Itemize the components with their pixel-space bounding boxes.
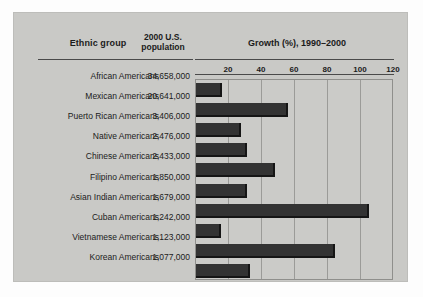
x-tick-label-120: 120 (386, 65, 399, 74)
row-population-chinese-americans: 2,433,000 (131, 151, 190, 161)
x-tick-label-80: 80 (323, 65, 332, 74)
bar-asian-indian-americans (196, 204, 369, 218)
row-population-asian-indian-americans: 1,679,000 (131, 192, 190, 202)
bar-row (196, 201, 394, 221)
row-population-puerto-rican-americans: 3,406,000 (131, 111, 190, 121)
row-population-filipino-americans: 1,850,000 (131, 172, 190, 182)
row-population-korean-americans: 1,077,000 (131, 252, 190, 262)
bar-african-americans (196, 83, 222, 97)
x-tick-label-100: 100 (353, 65, 366, 74)
bar-mexican-americans (196, 103, 288, 117)
bar-row (196, 181, 394, 201)
bar-native-americans (196, 143, 247, 157)
bar-filipino-americans (196, 184, 247, 198)
bar-cuban-americans (196, 224, 221, 238)
x-tick-label-60: 60 (290, 65, 299, 74)
bar-row (196, 241, 394, 261)
bar-row (196, 100, 394, 120)
x-tick-label-40: 40 (257, 65, 266, 74)
row-population-african-americans: 34,658,000 (131, 71, 190, 81)
bar-row (196, 261, 394, 281)
figure-canvas: Ethnic group 2000 U.S. population Growth… (0, 0, 423, 297)
bar-korean-americans (196, 264, 250, 278)
chart-panel: Ethnic group 2000 U.S. population Growth… (13, 12, 408, 282)
row-population-vietnamese-americans: 1,123,000 (131, 232, 190, 242)
x-axis-rule (195, 74, 394, 75)
bar-vietnamese-americans (196, 244, 335, 258)
bar-chinese-americans (196, 163, 275, 177)
bar-row (196, 120, 394, 140)
bar-row (196, 140, 394, 160)
row-population-mexican-americans: 20,641,000 (131, 91, 190, 101)
plot-area (195, 79, 393, 280)
x-tick-label-20: 20 (224, 65, 233, 74)
bar-row (196, 80, 394, 100)
row-population-cuban-americans: 1,242,000 (131, 212, 190, 222)
row-population-native-americans: 2,476,000 (131, 131, 190, 141)
bar-row (196, 160, 394, 180)
bar-puerto-rican-americans (196, 123, 241, 137)
bar-row (196, 221, 394, 241)
